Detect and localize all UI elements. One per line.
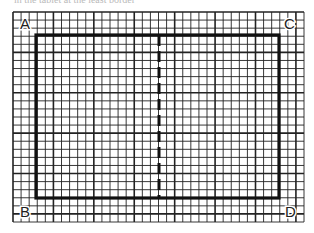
corner-label-c: C xyxy=(284,15,295,32)
corner-label-a: A xyxy=(20,15,30,32)
grid-diagram: A C B D xyxy=(0,0,314,233)
corner-label-d: D xyxy=(285,203,296,220)
corner-label-b: B xyxy=(20,203,30,220)
